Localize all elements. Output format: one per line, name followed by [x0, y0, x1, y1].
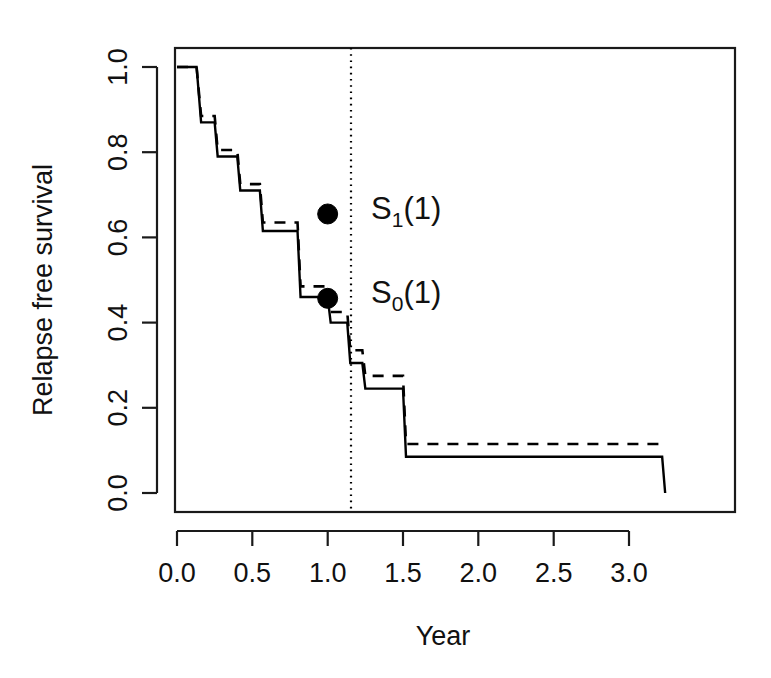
y-tick-label-1.0: 1.0 — [103, 48, 133, 86]
x-axis-title: Year — [416, 621, 471, 651]
x-tick-label-0.0: 0.0 — [158, 558, 196, 588]
s0-label-subscript: 0 — [392, 292, 404, 315]
y-tick-label-0.0: 0.0 — [103, 474, 133, 512]
x-tick-label-0.5: 0.5 — [234, 558, 272, 588]
y-tick-label-0.6: 0.6 — [103, 219, 133, 257]
km-survival-figure: 1.0 0.8 0.6 0.4 0.2 0.0 0.0 0.5 1.0 1.5 … — [0, 0, 771, 678]
y-tick-label-0.4: 0.4 — [103, 304, 133, 342]
x-tick-label-1.0: 1.0 — [309, 558, 347, 588]
km-plot-svg: 1.0 0.8 0.6 0.4 0.2 0.0 0.0 0.5 1.0 1.5 … — [0, 0, 771, 678]
dashed-survival-curve — [177, 67, 665, 444]
s1-point-label: S1(1) — [371, 191, 441, 231]
s0-point-marker — [318, 288, 338, 308]
y-tick-label-0.2: 0.2 — [103, 389, 133, 427]
x-tick-label-2.0: 2.0 — [460, 558, 498, 588]
s0-point-label: S0(1) — [371, 275, 441, 315]
y-axis — [142, 67, 157, 493]
plot-frame — [175, 48, 735, 512]
y-tick-labels: 1.0 0.8 0.6 0.4 0.2 0.0 — [103, 48, 133, 512]
s1-point-marker — [318, 204, 338, 224]
x-tick-label-2.5: 2.5 — [535, 558, 573, 588]
y-axis-title: Relapse free survival — [28, 164, 58, 416]
x-axis — [177, 531, 629, 546]
x-tick-label-1.5: 1.5 — [384, 558, 422, 588]
x-tick-labels: 0.0 0.5 1.0 1.5 2.0 2.5 3.0 — [158, 558, 648, 588]
s1-label-tail: (1) — [403, 191, 441, 226]
s1-label-subscript: 1 — [392, 208, 404, 231]
s0-label-tail: (1) — [403, 275, 441, 310]
x-tick-label-3.0: 3.0 — [610, 558, 648, 588]
s1-label-base: S — [371, 191, 392, 226]
s0-label-base: S — [371, 275, 392, 310]
y-tick-label-0.8: 0.8 — [103, 133, 133, 171]
